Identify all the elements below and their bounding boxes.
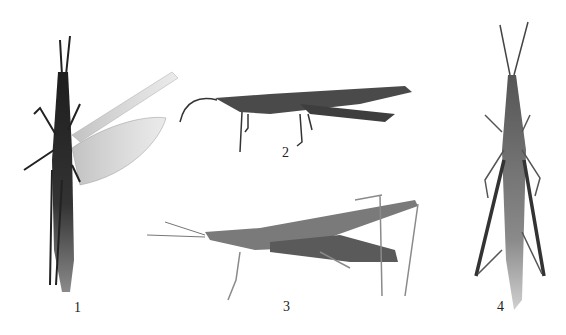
figure-plate: 1 2 3 4 <box>0 0 566 335</box>
specimen-1 <box>24 36 178 292</box>
specimen-4 <box>476 22 544 310</box>
panel-label-4: 4 <box>497 299 504 314</box>
specimen-3-antenna <box>147 222 205 237</box>
panel-label-2: 2 <box>282 145 289 160</box>
specimen-2-antenna <box>180 99 217 122</box>
specimen-2-abdomen <box>300 104 395 122</box>
panel-label-3: 3 <box>283 299 290 314</box>
specimen-1-antenna <box>60 36 70 75</box>
specimen-3 <box>147 195 418 300</box>
specimen-2 <box>180 86 412 152</box>
panel-label-1: 1 <box>74 300 81 315</box>
specimen-4-antenna <box>500 22 528 75</box>
specimen-2-legs <box>240 112 312 152</box>
specimen-1-body <box>52 72 74 292</box>
specimen-4-body <box>502 75 526 310</box>
